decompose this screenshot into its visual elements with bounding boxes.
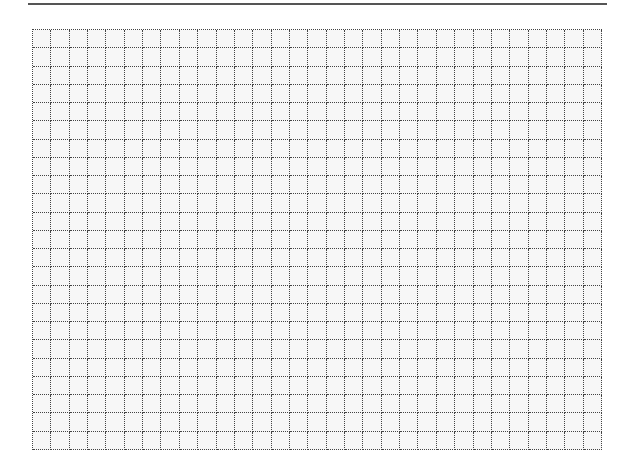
grid-cell [547,249,565,267]
grid-cell [363,231,381,249]
grid-cell [272,121,290,139]
grid-cell [308,432,326,450]
grid-cell [510,413,528,431]
grid-cell [272,194,290,212]
grid-cell [382,67,400,85]
grid-cell [584,140,602,158]
grid-cell [198,413,216,431]
grid-cell [382,194,400,212]
grid-cell [363,395,381,413]
grid-cell [345,30,363,48]
grid-cell [125,395,143,413]
grid-cell [235,432,253,450]
grid-cell [455,340,473,358]
grid-cell [290,267,308,285]
grid-cell [51,413,69,431]
grid-cell [382,359,400,377]
grid-cell [437,85,455,103]
grid-cell [88,48,106,66]
grid-cell [70,432,88,450]
grid-cell [180,304,198,322]
grid-cell [235,359,253,377]
grid-cell [272,413,290,431]
grid-cell [584,267,602,285]
grid-cell [88,249,106,267]
grid-cell [327,304,345,322]
grid-cell [161,194,179,212]
grid-cell [161,322,179,340]
grid-cell [143,377,161,395]
grid-cell [437,48,455,66]
grid-cell [382,231,400,249]
grid-cell [161,213,179,231]
grid-cell [529,121,547,139]
grid-cell [400,340,418,358]
grid-cell [235,304,253,322]
grid-cell [51,121,69,139]
grid-cell [529,140,547,158]
grid-cell [106,322,124,340]
grid-cell [327,267,345,285]
grid-cell [510,30,528,48]
grid-cell [235,231,253,249]
grid-cell [290,176,308,194]
grid-cell [345,322,363,340]
grid-cell [253,30,271,48]
grid-cell [382,213,400,231]
grid-cell [455,48,473,66]
grid-cell [125,432,143,450]
grid-cell [106,340,124,358]
grid-cell [272,30,290,48]
grid-cell [400,267,418,285]
grid-cell [33,67,51,85]
grid-cell [584,377,602,395]
grid-cell [33,395,51,413]
grid-cell [88,359,106,377]
grid-cell [106,213,124,231]
grid-cell [437,30,455,48]
grid-cell [88,30,106,48]
grid-cell [327,176,345,194]
grid-cell [345,194,363,212]
grid-cell [106,359,124,377]
grid-cell [474,67,492,85]
grid-cell [180,340,198,358]
grid-cell [382,304,400,322]
grid-cell [382,377,400,395]
grid-cell [33,48,51,66]
grid-cell [455,140,473,158]
grid-cell [492,158,510,176]
grid-cell [363,249,381,267]
grid-cell [363,158,381,176]
grid-cell [180,30,198,48]
grid-cell [363,359,381,377]
grid-cell [400,359,418,377]
grid-cell [88,158,106,176]
grid-cell [272,231,290,249]
grid-cell [106,377,124,395]
grid-cell [161,286,179,304]
grid-cell [584,340,602,358]
grid-cell [400,395,418,413]
grid-cell [33,432,51,450]
grid-cell [418,377,436,395]
grid-cell [198,103,216,121]
grid-cell [33,231,51,249]
grid-cell [272,85,290,103]
grid-cell [584,67,602,85]
grid-cell [290,213,308,231]
grid-cell [363,304,381,322]
grid-cell [235,67,253,85]
grid-cell [217,67,235,85]
grid-cell [547,158,565,176]
grid-cell [272,67,290,85]
grid-cell [51,140,69,158]
grid-cell [308,340,326,358]
grid-cell [33,340,51,358]
grid-cell [400,67,418,85]
grid-cell [217,432,235,450]
grid-cell [88,267,106,285]
grid-cell [161,267,179,285]
grid-cell [327,249,345,267]
grid-cell [125,121,143,139]
